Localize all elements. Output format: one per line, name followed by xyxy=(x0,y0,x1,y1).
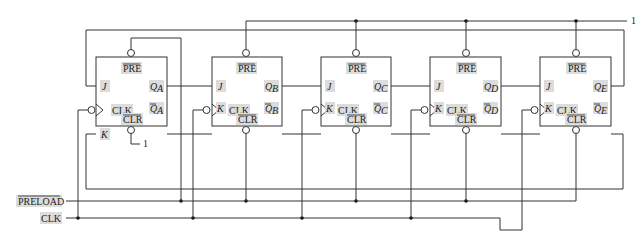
preload-label: PRELOAD xyxy=(18,196,64,207)
svg-text:E: E xyxy=(600,105,607,116)
pre-bubble-b xyxy=(243,50,250,57)
pre-bubble-a xyxy=(128,50,135,57)
svg-text:J: J xyxy=(546,81,551,92)
svg-text:J: J xyxy=(102,81,107,92)
svg-text:K: K xyxy=(216,103,225,114)
clr-bubble-b xyxy=(243,127,250,134)
logic-one-label-clr-a: 1 xyxy=(143,138,148,149)
svg-text:A: A xyxy=(156,83,164,94)
svg-text:D: D xyxy=(490,83,499,94)
svg-text:CLR: CLR xyxy=(347,114,367,125)
svg-text:B: B xyxy=(272,83,278,94)
svg-text:B: B xyxy=(272,105,278,116)
svg-text:CLR: CLR xyxy=(238,114,258,125)
svg-text:K: K xyxy=(100,129,109,140)
svg-text:PRE: PRE xyxy=(458,63,476,74)
svg-text:PRE: PRE xyxy=(348,63,366,74)
clr-bubble-d xyxy=(463,127,470,134)
svg-text:E: E xyxy=(600,83,607,94)
svg-text:J: J xyxy=(327,81,332,92)
svg-text:C: C xyxy=(381,105,388,116)
svg-text:PRE: PRE xyxy=(123,63,141,74)
svg-text:J: J xyxy=(218,81,223,92)
svg-text:K: K xyxy=(325,103,334,114)
svg-text:A: A xyxy=(156,105,164,116)
shift-register-diagram: 1 1 xyxy=(0,0,643,240)
svg-text:K: K xyxy=(544,103,553,114)
clr-bubble-c xyxy=(353,127,360,134)
clr-bubble-a xyxy=(128,127,135,134)
svg-text:PRE: PRE xyxy=(568,63,586,74)
clk-label: CLK xyxy=(41,213,62,224)
pre-bubble-e xyxy=(573,50,580,57)
svg-text:CLR: CLR xyxy=(123,114,143,125)
qe-bar-feedback-wire xyxy=(86,134,623,189)
svg-text:CLR: CLR xyxy=(567,114,587,125)
svg-text:CLR: CLR xyxy=(457,114,477,125)
svg-text:K: K xyxy=(434,103,443,114)
svg-text:C: C xyxy=(381,83,388,94)
pre-bubble-c xyxy=(353,50,360,57)
svg-text:J: J xyxy=(436,81,441,92)
pre-bubble-d xyxy=(463,50,470,57)
svg-text:PRE: PRE xyxy=(238,63,256,74)
clr-a-logic-one xyxy=(131,134,140,145)
qe-output-wire xyxy=(611,30,624,86)
svg-text:D: D xyxy=(490,105,499,116)
clr-bubble-e xyxy=(573,127,580,134)
logic-one-label-top: 1 xyxy=(631,15,636,26)
